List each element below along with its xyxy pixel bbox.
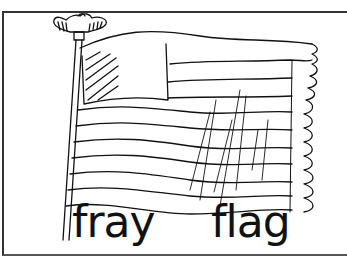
word-fray: fray <box>72 200 155 244</box>
flag-icon <box>66 32 317 214</box>
eagle-finial-icon <box>54 14 107 40</box>
word-flag: flag <box>211 200 290 244</box>
flag-illustration <box>0 0 347 260</box>
